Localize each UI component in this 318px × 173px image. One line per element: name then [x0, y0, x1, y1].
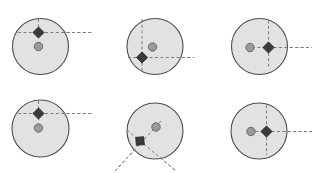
panel-group-4: [12, 100, 92, 157]
figure-canvas: [0, 0, 318, 173]
panel-group-3: [232, 19, 313, 75]
centroid-dot: [247, 127, 255, 135]
centroid-dot: [246, 43, 254, 51]
centroid-dot: [34, 42, 42, 50]
panel-group-5: [115, 103, 183, 171]
panels-plot: [0, 0, 318, 173]
centroid-dot: [148, 43, 156, 51]
centroid-dot: [34, 124, 42, 132]
disk-circle: [232, 19, 288, 75]
panel-group-1: [13, 19, 93, 75]
panel-group-2: [127, 19, 194, 75]
centroid-dot: [152, 123, 160, 131]
panel-group-6: [231, 103, 312, 159]
